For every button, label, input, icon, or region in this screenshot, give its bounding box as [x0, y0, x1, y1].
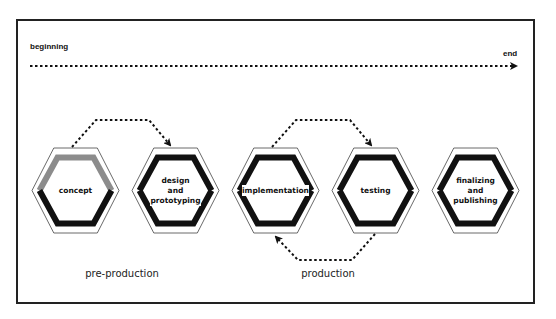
timeline-end-label: end [503, 49, 517, 58]
stage-label-line: testing [361, 185, 391, 196]
phase-label-pre-production: pre-production [85, 268, 159, 279]
phase-label-production: production [301, 268, 355, 279]
arrow-concept-to-design [72, 120, 170, 147]
arrow-implementation-to-testing [272, 120, 371, 147]
diagram-canvas [0, 0, 556, 319]
stage-label-concept: concept [36, 186, 116, 196]
timeline-start-label: beginning [30, 42, 68, 51]
stage-label-line: prototyping [150, 195, 200, 206]
stage-label-finalizing: finalizingandpublishing [436, 176, 516, 206]
stage-label-implementation: implementation [236, 186, 316, 196]
stage-label-line: implementation [242, 185, 309, 196]
arrow-testing-to-implementation [276, 234, 375, 260]
stage-label-design: designandprototyping [136, 176, 216, 206]
stage-label-line: publishing [453, 195, 497, 206]
stage-label-line: concept [59, 185, 92, 196]
stage-label-testing: testing [336, 186, 416, 196]
